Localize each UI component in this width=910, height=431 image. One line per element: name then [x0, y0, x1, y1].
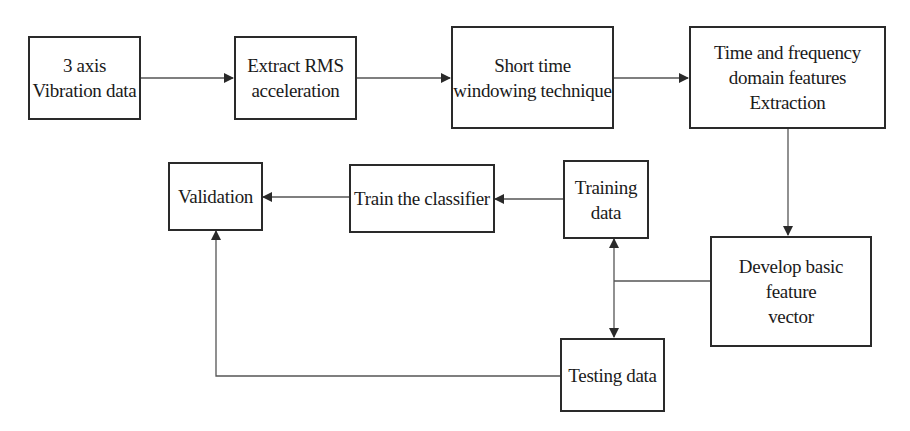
node-train-classifier: Train the classifier [349, 164, 495, 233]
node-testing-data: Testing data [560, 338, 665, 412]
flowchart-diagram: 3 axis Vibration data Extract RMS accele… [0, 0, 910, 431]
node-vibration-data: 3 axis Vibration data [28, 36, 141, 120]
node-short-time-windowing: Short time windowing technique [451, 26, 614, 129]
node-label-line: Time and frequency [691, 40, 884, 65]
node-feature-extraction: Time and frequency domain features Extra… [689, 26, 886, 129]
node-feature-vector: Develop basic feature vector [710, 236, 872, 347]
node-label-line: Training [575, 175, 637, 200]
node-label-line: windowing technique [453, 78, 611, 103]
node-extract-rms: Extract RMS acceleration [234, 36, 357, 120]
node-label-line: Validation [178, 184, 253, 209]
node-label-line: vector [712, 304, 870, 329]
arrow-testing-to-validation [216, 231, 560, 376]
node-label-line: Train the classifier [354, 186, 490, 211]
node-label-line: Testing data [568, 363, 656, 388]
node-training-data: Training data [563, 160, 649, 239]
node-label-line: Vibration data [33, 78, 137, 103]
node-label-line: Short time [453, 53, 611, 78]
node-label-line: acceleration [247, 78, 343, 103]
node-validation: Validation [168, 162, 263, 231]
node-label-line: Extract RMS [247, 53, 343, 78]
node-label-line: Develop basic feature [712, 254, 870, 304]
node-label-line: 3 axis [33, 53, 137, 78]
node-label-line: data [575, 200, 637, 225]
node-label-line: domain features Extraction [691, 65, 884, 115]
